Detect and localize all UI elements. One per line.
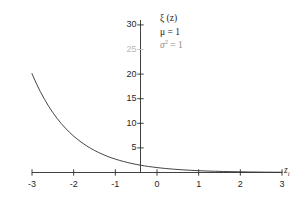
legend-function-label: ξ (z) (160, 12, 250, 26)
x-tick-label: 3 (273, 180, 291, 189)
y-tick-label: 5 (115, 143, 137, 152)
y-tick-label: 10 (115, 119, 137, 128)
x-tick-label: 0 (148, 180, 166, 189)
y-tick-label: 15 (115, 94, 137, 103)
x-axis-label-subscript: i (288, 170, 290, 177)
y-tick-label: 20 (115, 70, 137, 79)
y-tick-label: 30 (115, 20, 137, 29)
chart-figure: 30252015105 -3-2-10123 ξ (z) μ = 1 σ2 = … (0, 0, 300, 203)
legend-sigma-label: σ2 = 1 (160, 39, 250, 53)
x-tick-label: -2 (65, 180, 83, 189)
legend-sigma-value: = 1 (168, 40, 183, 50)
x-tick-label: 2 (231, 180, 249, 189)
plot-area (0, 0, 300, 203)
legend-mu-label: μ = 1 (160, 26, 250, 40)
x-axis-label: zi (284, 165, 290, 175)
legend-block: ξ (z) μ = 1 σ2 = 1 (160, 12, 250, 53)
x-tick-label: -1 (106, 180, 124, 189)
x-tick-label: 1 (190, 180, 208, 189)
y-tick-label: 25 (115, 45, 137, 54)
data-curve (32, 74, 282, 173)
x-tick-label: -3 (23, 180, 41, 189)
